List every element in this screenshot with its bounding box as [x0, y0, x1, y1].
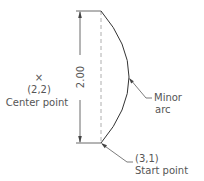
- minor-arc-label-2: arc: [155, 104, 171, 115]
- start-point-arrow-icon: [101, 143, 107, 148]
- dimension-arrow-top-icon: [78, 11, 82, 18]
- start-point-label: Start point: [135, 165, 188, 176]
- arc-diagram: 2.00 × (2,2) Center point Minor arc (3,1…: [0, 0, 204, 181]
- center-point-coords: (2,2): [27, 84, 51, 95]
- dimension-value: 2.00: [75, 66, 86, 88]
- dimension-arrow-bottom-icon: [78, 136, 82, 143]
- minor-arc: [101, 11, 129, 143]
- minor-arc-label-1: Minor: [154, 92, 183, 103]
- center-point-label: Center point: [6, 97, 68, 108]
- start-point-coords: (3,1): [135, 153, 159, 164]
- center-point-marker: ×: [35, 72, 43, 83]
